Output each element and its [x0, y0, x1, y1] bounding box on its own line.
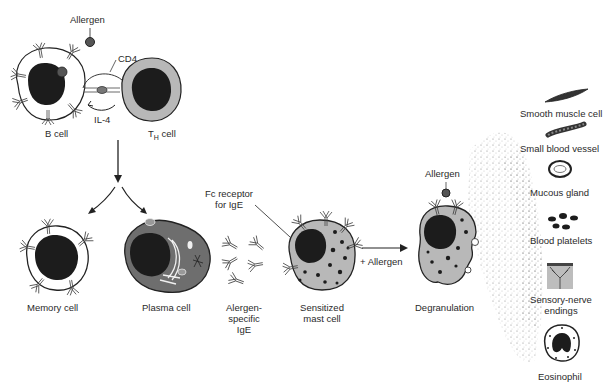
label-fc-receptor: Fc receptor for IgE: [204, 188, 254, 210]
platelets-icon: [548, 213, 578, 230]
label-mucous-gland: Mucous gland: [530, 187, 589, 198]
mediator-spray: [468, 133, 543, 362]
label-allergen-top: Allergen: [70, 14, 105, 25]
label-nerve-endings: Sensory-nerve endings: [528, 294, 594, 316]
label-memory-cell: Memory cell: [27, 302, 78, 313]
label-il4: IL-4: [94, 114, 110, 125]
allergy-diagram: [0, 0, 615, 390]
arrow-plus-allergen: [362, 244, 408, 252]
label-eosinophil: Eosinophil: [538, 371, 582, 382]
label-plasma-cell: Plasma cell: [142, 302, 191, 313]
smooth-muscle-cell-icon: [545, 89, 588, 102]
label-blood-vessel: Small blood vessel: [520, 143, 599, 154]
sensitized-mast-cell: [255, 205, 364, 290]
arrow-split: [88, 187, 147, 214]
label-degranulation: Degranulation: [415, 302, 474, 313]
b-cell: [10, 42, 85, 125]
label-th-cell: TH cell: [148, 128, 176, 143]
label-allergen-degran: Allergen: [425, 168, 460, 179]
label-platelets: Blood platelets: [530, 235, 592, 246]
label-cd4: CD4: [118, 53, 137, 64]
cd4-bridge: [83, 60, 122, 110]
label-smooth-muscle: Smooth muscle cell: [520, 108, 602, 119]
mucous-gland-icon: [549, 161, 571, 177]
label-b-cell: B cell: [45, 128, 68, 139]
arrow-down: [114, 140, 122, 183]
free-ige: [221, 235, 267, 288]
eosinophil-icon: [545, 325, 579, 361]
plasma-cell: [125, 219, 210, 293]
blood-vessel-icon: [548, 124, 584, 135]
nerve-endings-icon: [547, 263, 573, 289]
label-sensitized-mast-cell: Sensitized mast cell: [292, 302, 352, 324]
label-allergen-specific-ige: Alergen- specific IgE: [222, 302, 266, 335]
label-plus-allergen: + Allergen: [360, 256, 403, 267]
allergen-particle: [86, 28, 95, 47]
memory-cell: [19, 219, 94, 296]
th-cell: [122, 58, 181, 121]
